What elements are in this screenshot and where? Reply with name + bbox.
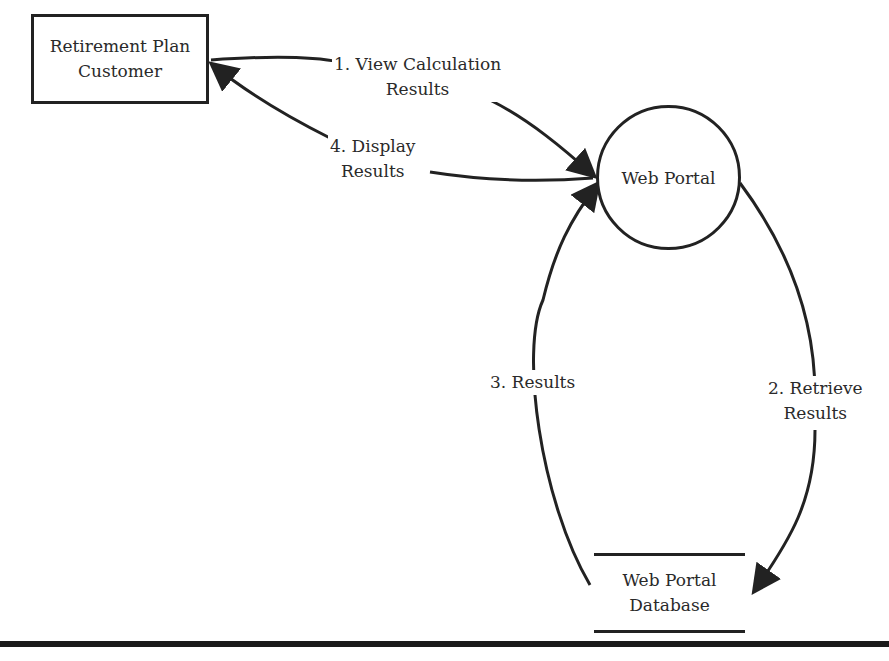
- store-bottom-line: [594, 630, 745, 633]
- flow-1-label-line1: 1. View Calculation: [334, 52, 501, 77]
- store-label-line2: Database: [623, 593, 717, 618]
- flow-1-label-line2: Results: [334, 77, 501, 102]
- flow-2-label: 2. Retrieve Results: [766, 376, 865, 426]
- entity-label-line2: Customer: [50, 59, 191, 84]
- process-label: Web Portal: [622, 168, 716, 188]
- flow-2-label-line2: Results: [768, 401, 863, 426]
- entity-label-line1: Retirement Plan: [50, 34, 191, 59]
- store-label-line1: Web Portal: [623, 568, 717, 593]
- flow-4-arrow-head: [213, 65, 330, 138]
- process-web-portal: Web Portal: [596, 105, 741, 250]
- flow-4-label-line1: 4. Display: [330, 134, 415, 159]
- flow-2-label-line1: 2. Retrieve: [768, 376, 863, 401]
- external-entity-customer: Retirement Plan Customer: [31, 14, 209, 104]
- flow-1-label: 1. View Calculation Results: [332, 52, 503, 102]
- flow-4-label-line2: Results: [330, 159, 415, 184]
- flow-4-arrow: [430, 172, 593, 180]
- flow-3-label: 3. Results: [488, 370, 577, 395]
- store-top-line: [594, 553, 745, 556]
- flow-3-label-line1: 3. Results: [490, 370, 575, 395]
- data-store-database: Web Portal Database: [594, 553, 745, 633]
- bottom-rule-divider: [0, 641, 889, 647]
- flow-4-label: 4. Display Results: [328, 134, 417, 184]
